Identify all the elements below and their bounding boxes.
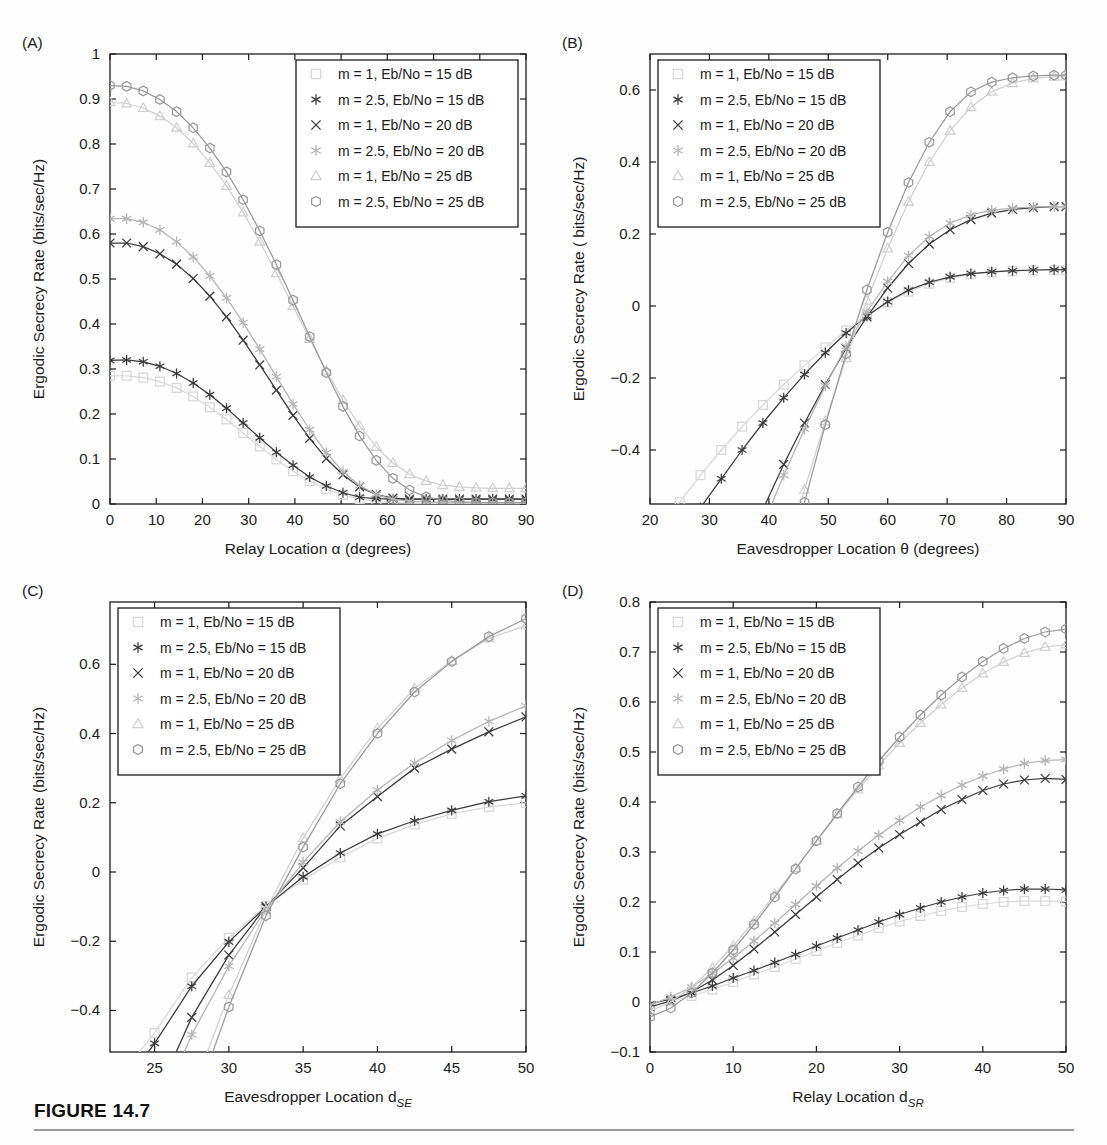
- y-tick-label: −0.2: [610, 369, 640, 386]
- x-tick-label: 30: [701, 511, 718, 528]
- legend-item-label: m = 2.5, Eb/No = 20 dB: [700, 143, 846, 159]
- y-tick-label: 0.2: [619, 893, 640, 910]
- data-series: [106, 355, 531, 504]
- x-tick-label: 30: [240, 511, 257, 528]
- legend-item: m = 2.5, Eb/No = 25 dB: [674, 194, 847, 210]
- y-tick-label: −0.2: [70, 932, 100, 949]
- legend-item-label: m = 2.5, Eb/No = 15 dB: [338, 92, 484, 108]
- y-tick-label: 0.4: [619, 793, 640, 810]
- x-tick-label: 70: [425, 511, 442, 528]
- panel-a: (A)010203040506070809000.10.20.30.40.50.…: [18, 30, 548, 578]
- x-tick-label: 35: [295, 1059, 312, 1076]
- y-tick-label: 0.7: [79, 180, 100, 197]
- legend-item-label: m = 1, Eb/No = 15 dB: [160, 614, 295, 630]
- legend-item: m = 2.5, Eb/No = 15 dB: [133, 640, 306, 656]
- y-tick-label: 0.3: [79, 360, 100, 377]
- chart-a: (A)010203040506070809000.10.20.30.40.50.…: [18, 30, 548, 578]
- legend-item-label: m = 1, Eb/No = 25 dB: [338, 168, 473, 184]
- y-tick-label: −0.1: [610, 1043, 640, 1060]
- chart-legend: m = 1, Eb/No = 15 dBm = 2.5, Eb/No = 15 …: [118, 608, 340, 775]
- y-tick-label: 0.1: [619, 943, 640, 960]
- panel-letter: (A): [22, 34, 43, 51]
- legend-item: m = 2.5, Eb/No = 20 dB: [673, 143, 846, 159]
- x-tick-label: 60: [379, 511, 396, 528]
- y-tick-label: 0.2: [619, 225, 640, 242]
- y-tick-label: 0.8: [79, 135, 100, 152]
- legend-item-label: m = 1, Eb/No = 15 dB: [338, 66, 473, 82]
- y-tick-label: 0.6: [619, 81, 640, 98]
- y-tick-label: 0: [632, 297, 640, 314]
- legend-item-label: m = 1, Eb/No = 15 dB: [700, 614, 835, 630]
- chart-legend: m = 1, Eb/No = 15 dBm = 2.5, Eb/No = 15 …: [296, 60, 518, 227]
- y-axis-title: Ergodic Secrecy Rate (bits/sec/Hz): [30, 159, 47, 399]
- legend-item: m = 2.5, Eb/No = 15 dB: [673, 92, 846, 108]
- panel-letter: (D): [562, 582, 584, 599]
- legend-item-label: m = 2.5, Eb/No = 25 dB: [160, 742, 306, 758]
- x-tick-label: 40: [974, 1059, 991, 1076]
- panel-letter: (C): [22, 582, 44, 599]
- legend-item-label: m = 1, Eb/No = 25 dB: [700, 168, 835, 184]
- y-tick-label: 1: [92, 45, 100, 62]
- legend-item: m = 2.5, Eb/No = 20 dB: [673, 691, 846, 707]
- x-axis-title: Relay Location α (degrees): [225, 540, 411, 557]
- legend-item-label: m = 1, Eb/No = 20 dB: [700, 665, 835, 681]
- chart-legend: m = 1, Eb/No = 15 dBm = 2.5, Eb/No = 15 …: [658, 608, 880, 775]
- y-tick-label: 0.1: [79, 450, 100, 467]
- legend-item: m = 2.5, Eb/No = 15 dB: [311, 92, 484, 108]
- y-tick-label: 0: [632, 993, 640, 1010]
- legend-item-label: m = 2.5, Eb/No = 15 dB: [700, 640, 846, 656]
- x-tick-label: 20: [194, 511, 211, 528]
- legend-item-label: m = 2.5, Eb/No = 20 dB: [338, 143, 484, 159]
- chart-d: (D)01020304050−0.100.10.20.30.40.50.60.7…: [558, 578, 1088, 1126]
- legend-item-label: m = 2.5, Eb/No = 20 dB: [160, 691, 306, 707]
- y-tick-label: 0.4: [79, 315, 100, 332]
- x-tick-label: 40: [287, 511, 304, 528]
- legend-item: m = 2.5, Eb/No = 20 dB: [311, 143, 484, 159]
- y-tick-label: 0.5: [619, 743, 640, 760]
- legend-item-label: m = 2.5, Eb/No = 25 dB: [700, 194, 846, 210]
- y-tick-label: 0: [92, 863, 100, 880]
- legend-item-label: m = 2.5, Eb/No = 20 dB: [700, 691, 846, 707]
- legend-item-label: m = 1, Eb/No = 25 dB: [160, 716, 295, 732]
- panel-b: (B)2030405060708090−0.4−0.200.20.40.6Eav…: [558, 30, 1088, 578]
- chart-legend: m = 1, Eb/No = 15 dBm = 2.5, Eb/No = 15 …: [658, 60, 880, 227]
- x-tick-label: 25: [146, 1059, 163, 1076]
- x-tick-label: 20: [642, 511, 659, 528]
- x-tick-label: 50: [820, 511, 837, 528]
- x-tick-label: 10: [725, 1059, 742, 1076]
- legend-item-label: m = 1, Eb/No = 25 dB: [700, 716, 835, 732]
- y-tick-label: 0.3: [619, 843, 640, 860]
- data-series: [105, 213, 530, 508]
- legend-item: m = 2.5, Eb/No = 20 dB: [133, 691, 306, 707]
- legend-item-label: m = 2.5, Eb/No = 25 dB: [338, 194, 484, 210]
- y-tick-label: 0.6: [79, 655, 100, 672]
- panel-d: (D)01020304050−0.100.10.20.30.40.50.60.7…: [558, 578, 1088, 1126]
- figure-caption: FIGURE 14.7: [34, 1100, 1074, 1131]
- x-tick-label: 30: [891, 1059, 908, 1076]
- legend-item-label: m = 1, Eb/No = 15 dB: [700, 66, 835, 82]
- legend-item: m = 2.5, Eb/No = 15 dB: [673, 640, 846, 656]
- x-tick-label: 60: [879, 511, 896, 528]
- legend-item: m = 2.5, Eb/No = 25 dB: [312, 194, 485, 210]
- y-tick-label: −0.4: [610, 441, 640, 458]
- y-tick-label: 0.2: [79, 405, 100, 422]
- caption-divider: [34, 1129, 1074, 1131]
- y-tick-label: 0.8: [619, 593, 640, 610]
- y-tick-label: 0.7: [619, 643, 640, 660]
- legend-item-label: m = 2.5, Eb/No = 15 dB: [160, 640, 306, 656]
- x-tick-label: 0: [646, 1059, 654, 1076]
- y-tick-label: 0.4: [79, 725, 100, 742]
- panel-letter: (B): [562, 34, 583, 51]
- data-series: [117, 791, 530, 1094]
- x-tick-label: 10: [148, 511, 165, 528]
- legend-item: m = 2.5, Eb/No = 25 dB: [134, 742, 307, 758]
- x-tick-label: 0: [106, 511, 114, 528]
- x-tick-label: 80: [471, 511, 488, 528]
- x-tick-label: 50: [333, 511, 350, 528]
- legend-item-label: m = 1, Eb/No = 20 dB: [160, 665, 295, 681]
- x-tick-label: 70: [939, 511, 956, 528]
- y-tick-label: 0.4: [619, 153, 640, 170]
- y-tick-label: 0.2: [79, 794, 100, 811]
- y-tick-label: 0: [92, 495, 100, 512]
- legend-item-label: m = 1, Eb/No = 20 dB: [700, 117, 835, 133]
